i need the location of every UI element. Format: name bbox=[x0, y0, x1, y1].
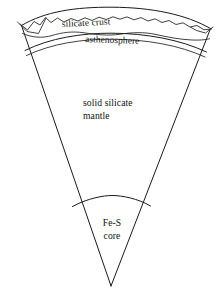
label-core-line1: Fe-S bbox=[103, 217, 122, 228]
interior-cross-section-figure: silicate crust asthenosphere solid silic… bbox=[0, 0, 221, 297]
label-mantle-line2: mantle bbox=[83, 110, 110, 121]
label-asthenosphere: asthenosphere bbox=[85, 34, 140, 46]
cross-section-canvas: silicate crust asthenosphere solid silic… bbox=[0, 0, 221, 297]
label-mantle-line1: solid silicate bbox=[83, 97, 133, 108]
label-core-line2: core bbox=[104, 230, 121, 241]
wedge-body-fill bbox=[22, 10, 211, 286]
